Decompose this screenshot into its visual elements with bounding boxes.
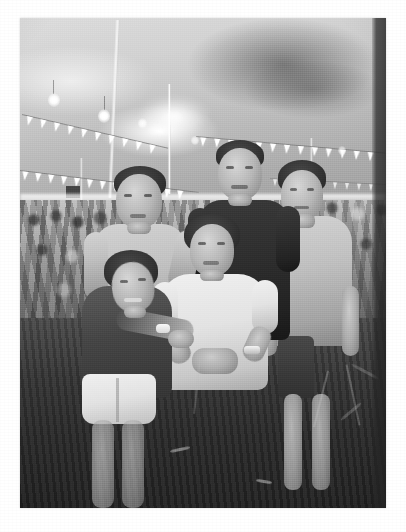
scan-edge-shadow xyxy=(372,18,386,508)
bulb-cord xyxy=(53,80,54,94)
wristwatch xyxy=(244,346,260,354)
hanging-light-bulb xyxy=(338,146,346,155)
leg xyxy=(92,420,114,508)
hand xyxy=(168,330,194,348)
neck xyxy=(200,270,224,281)
scanned-photograph: Family group photograph under an event t… xyxy=(20,18,386,508)
mouth xyxy=(231,185,248,189)
shorts-seam xyxy=(116,378,119,422)
eye xyxy=(217,242,225,245)
eye xyxy=(198,242,206,245)
face xyxy=(190,224,234,276)
eye xyxy=(245,166,253,169)
leg xyxy=(122,420,144,508)
right-forearm xyxy=(342,286,359,356)
neck xyxy=(127,222,151,234)
face xyxy=(116,174,162,228)
mouth xyxy=(203,261,219,265)
leg xyxy=(284,394,302,490)
smile-mouth xyxy=(124,298,142,302)
leg xyxy=(312,394,330,490)
neck xyxy=(228,194,252,206)
shorts xyxy=(278,336,314,398)
eye xyxy=(138,278,146,281)
right-arm-sleeve xyxy=(276,206,300,272)
hanging-light-bulb xyxy=(98,109,110,123)
bulb-cord xyxy=(104,96,105,110)
flash-highlight xyxy=(138,96,210,136)
scan-page: Family group photograph under an event t… xyxy=(0,0,406,532)
white-shorts xyxy=(82,374,156,424)
mouth xyxy=(130,214,146,218)
wristband xyxy=(156,324,170,333)
eye xyxy=(144,194,152,197)
eye xyxy=(226,166,234,169)
hanging-light-bulb xyxy=(48,93,60,107)
hanging-light-bulb xyxy=(191,136,199,145)
eye xyxy=(307,188,314,191)
neck xyxy=(124,306,146,318)
face xyxy=(218,148,262,200)
eye xyxy=(120,280,128,283)
eye xyxy=(124,194,132,197)
eye xyxy=(290,188,297,191)
